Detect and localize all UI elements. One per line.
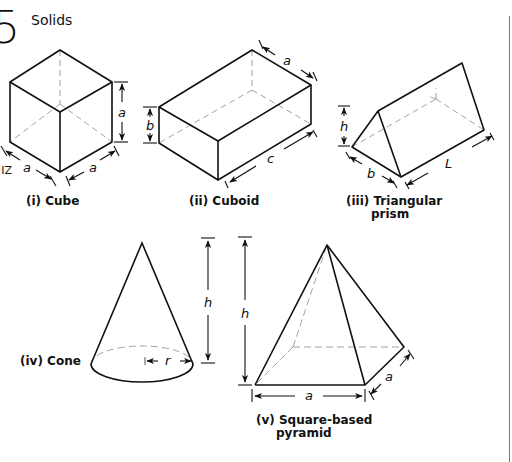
square-pyramid-figure — [255, 245, 404, 385]
cone-radius-label: r — [165, 353, 172, 368]
prism-height-label: h — [340, 119, 348, 134]
prism-caption-line2: prism — [371, 208, 409, 221]
cuboid-width-label: a — [283, 53, 291, 68]
cube-right-label: a — [89, 160, 97, 175]
cone-height-label: h — [204, 295, 212, 310]
solids-diagram: a a a a b c h b L h r h a a ZI — [0, 0, 512, 462]
prism-base-label: b — [367, 166, 375, 181]
pyramid-side-base-label: a — [385, 369, 393, 384]
cuboid-height-label: b — [146, 118, 154, 133]
prism-length-label: L — [445, 156, 452, 171]
cube-dimension-lines — [1, 82, 128, 186]
pyramid-caption-line2: pyramid — [276, 427, 332, 440]
cone-caption: (iv) Cone — [20, 355, 81, 368]
pyramid-front-base-label: a — [305, 388, 313, 403]
prism-dimension-lines — [338, 106, 494, 189]
margin-fragment: ZI — [1, 163, 12, 176]
pyramid-height-label: h — [241, 306, 249, 321]
triangular-prism-figure — [352, 63, 484, 177]
cube-figure — [10, 50, 112, 172]
cube-caption: (i) Cube — [26, 195, 79, 208]
cuboid-caption: (ii) Cuboid — [189, 195, 259, 208]
cube-height-label: a — [118, 105, 126, 120]
cube-left-label: a — [23, 160, 31, 175]
cuboid-figure — [159, 50, 311, 180]
cone-figure — [91, 243, 193, 382]
cuboid-length-label: c — [267, 151, 274, 166]
